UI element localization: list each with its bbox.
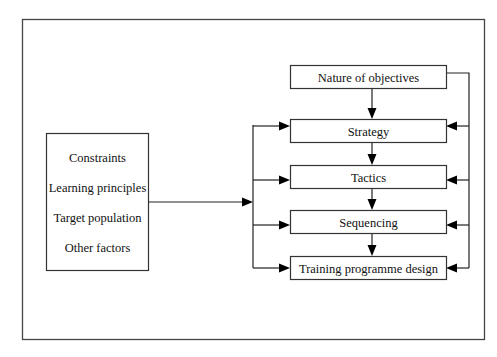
input-item-target-population: Target population <box>53 211 142 225</box>
node-tactics-label: Tactics <box>351 171 386 185</box>
arrowhead-right-tactics <box>446 176 457 185</box>
arrowhead-left-design <box>279 264 290 273</box>
node-nature-of-objectives: Nature of objectives <box>291 66 447 89</box>
node-strategy: Strategy <box>291 120 447 143</box>
arrowhead-tactics-sequencing <box>368 199 377 210</box>
arrowhead-strategy-tactics <box>368 154 377 165</box>
node-tactics: Tactics <box>291 166 447 189</box>
right-bus-line <box>446 73 469 268</box>
node-sequencing-label: Sequencing <box>339 216 398 230</box>
input-item-constraints: Constraints <box>69 151 126 165</box>
node-design-label: Training programme design <box>299 262 439 276</box>
node-strategy-label: Strategy <box>348 125 390 139</box>
input-item-other-factors: Other factors <box>65 241 131 255</box>
arrowhead-left-tactics <box>279 176 290 185</box>
arrowhead-left-sequencing <box>279 221 290 230</box>
arrowhead-sequencing-design <box>368 245 377 256</box>
input-factors-box: Constraints Learning principles Target p… <box>47 134 149 271</box>
arrowhead-objectives-strategy <box>368 108 377 119</box>
arrowhead-right-sequencing <box>446 221 457 230</box>
arrowhead-right-design <box>446 264 457 273</box>
diagram-canvas: Constraints Learning principles Target p… <box>0 0 497 357</box>
arrowhead-right-strategy <box>446 122 457 131</box>
input-item-learning-principles: Learning principles <box>49 181 147 195</box>
node-objectives-label: Nature of objectives <box>318 71 419 85</box>
node-training-programme-design: Training programme design <box>291 257 447 280</box>
arrowhead-left-strategy <box>279 122 290 131</box>
node-sequencing: Sequencing <box>291 211 447 234</box>
arrowhead-input-to-bus <box>242 198 253 207</box>
